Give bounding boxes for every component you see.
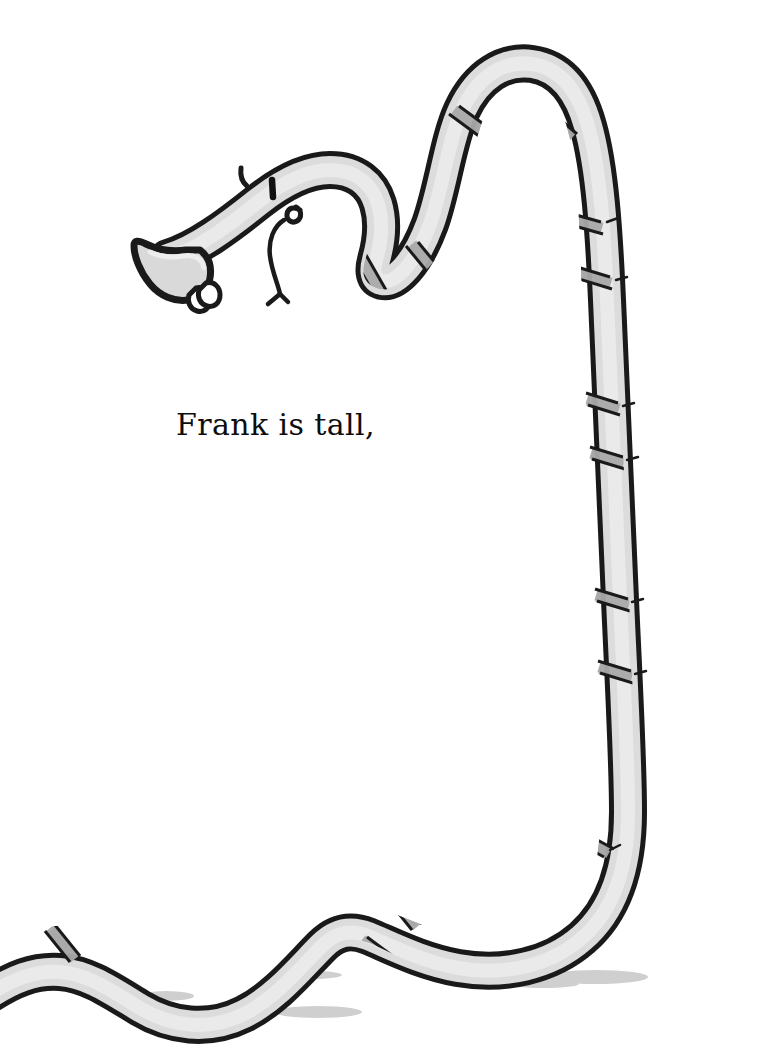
band-edge xyxy=(397,893,422,924)
eye xyxy=(272,180,273,197)
neck-fill xyxy=(0,63,628,1024)
neck-bands-top xyxy=(45,102,633,966)
band-edge xyxy=(531,889,558,918)
band-edge xyxy=(177,901,200,932)
neck-band xyxy=(528,894,552,920)
neck-edges xyxy=(0,63,628,1024)
neck-band xyxy=(172,904,195,935)
band-edge xyxy=(167,907,190,938)
band-edge xyxy=(521,895,548,924)
neck-bands xyxy=(52,108,631,962)
neck-body xyxy=(0,63,646,1024)
ground-shadow xyxy=(274,1006,362,1018)
mouth-curl xyxy=(287,207,301,222)
neck-edge-dark xyxy=(0,63,628,1024)
band-edge xyxy=(530,110,567,142)
neck-highlight xyxy=(0,63,628,1024)
neck-edge-inner xyxy=(0,63,628,1024)
tongue xyxy=(270,220,284,294)
horn-icon xyxy=(241,168,247,186)
nostril-bump xyxy=(198,283,220,307)
neck-band xyxy=(526,892,553,921)
neck-band xyxy=(174,906,194,934)
tongue-fork xyxy=(268,294,288,304)
neck-edge-highlight xyxy=(0,63,628,1024)
frank-illustration xyxy=(0,0,781,1045)
page-caption: Frank is tall, xyxy=(176,410,375,440)
picture-book-page: Frank is tall, xyxy=(0,0,781,1045)
